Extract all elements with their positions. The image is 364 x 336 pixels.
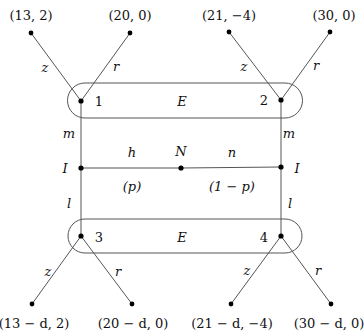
payoff-bottom-4: (30 − d, 0) — [294, 317, 364, 330]
node-label-n: N — [175, 145, 186, 158]
node-i-left — [78, 165, 83, 170]
node-label-1: 1 — [95, 95, 103, 108]
node-3 — [78, 233, 83, 238]
payoff-top-4: (30, 0) — [312, 9, 355, 22]
node-4 — [278, 233, 283, 238]
leaf-top-1 — [29, 31, 34, 36]
node-2 — [278, 97, 283, 102]
edge-1-r — [81, 33, 130, 101]
node-label-3: 3 — [95, 231, 103, 244]
edge-label-r-4: r — [315, 264, 321, 277]
edge-1-z — [31, 33, 81, 101]
edge-label-1-minus-p: (1 − p) — [209, 180, 255, 193]
leaf-bottom-3 — [229, 302, 234, 307]
payoff-bottom-1: (13 − d, 2) — [0, 317, 69, 330]
edge-label-l-right: l — [288, 197, 292, 210]
edge-label-m-right: m — [283, 127, 295, 140]
node-label-4: 4 — [260, 231, 268, 244]
edge-label-l-left: l — [67, 197, 71, 210]
edge-label-h: h — [128, 146, 136, 159]
payoff-top-2: (20, 0) — [108, 9, 151, 22]
edge-3-r — [81, 236, 132, 304]
leaf-top-2 — [128, 31, 133, 36]
node-label-i-right: I — [294, 162, 299, 175]
leaf-top-4 — [328, 30, 333, 35]
payoff-bottom-3: (21 − d, −4) — [191, 317, 273, 330]
info-set-label-top: E — [177, 95, 187, 108]
edge-2-z — [229, 32, 281, 100]
node-label-i-left: I — [62, 162, 67, 175]
payoff-top-1: (13, 2) — [9, 9, 52, 22]
edge-label-z-3: z — [45, 265, 52, 278]
node-1 — [78, 98, 83, 103]
edge-4-r — [281, 236, 331, 304]
leaf-bottom-1 — [30, 302, 35, 307]
edge-label-z-4: z — [244, 264, 251, 277]
edge-label-n: n — [228, 146, 236, 159]
leaf-bottom-4 — [329, 302, 334, 307]
node-label-2: 2 — [260, 94, 268, 107]
payoff-bottom-2: (20 − d, 0) — [98, 317, 169, 330]
node-i-right — [278, 164, 283, 169]
edge-label-p: (p) — [123, 180, 141, 193]
edge-2-r — [281, 32, 330, 100]
edge-label-m-left: m — [63, 127, 75, 140]
edge-label-z-1: z — [42, 61, 49, 74]
node-n — [178, 165, 183, 170]
info-set-label-bottom: E — [177, 231, 187, 244]
edge-label-r-3: r — [115, 265, 121, 278]
edge-label-r-2: r — [313, 59, 319, 72]
edge-n — [181, 167, 281, 168]
edge-4-z — [231, 236, 281, 304]
edge-3-z — [32, 236, 81, 304]
edge-label-z-2: z — [241, 60, 248, 73]
payoff-top-3: (21, −4) — [202, 9, 256, 22]
leaf-top-3 — [227, 30, 232, 35]
leaf-bottom-2 — [130, 302, 135, 307]
edge-label-r-1: r — [113, 60, 119, 73]
